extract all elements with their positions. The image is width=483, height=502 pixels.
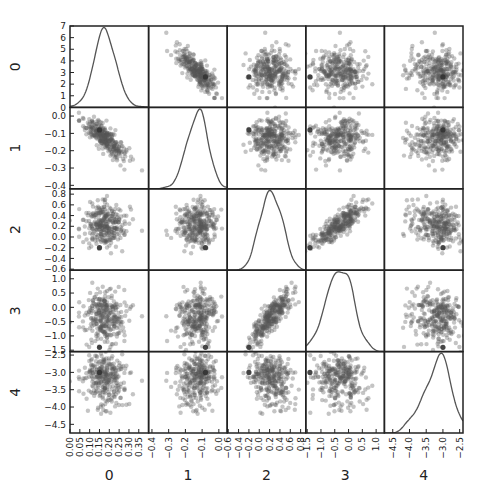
x-tick-label-2: −0.6: [223, 437, 233, 459]
kde-curve-4: [384, 353, 463, 433]
panel-frame-1-1: [149, 107, 228, 188]
outlier-point: [97, 245, 102, 250]
y-axis-title-4: 4: [7, 388, 23, 397]
outlier-point: [203, 345, 208, 350]
y-tick-label-0: 2: [60, 79, 66, 89]
x-tick-label-4: −3.0: [438, 437, 448, 459]
panel-0-2: [241, 31, 301, 125]
x-axis-title-1: 1: [183, 467, 192, 483]
y-tick-label-0: 6: [60, 33, 66, 43]
scatter-matrix-chart: 012345670−0.4−0.3−0.2−0.10.01−0.6−0.4−0.…: [0, 0, 483, 502]
x-tick-label-4: −2.5: [455, 437, 465, 459]
outlier-point: [307, 127, 312, 132]
x-axes: 0.000.050.100.150.200.250.300.350−0.4−0.…: [65, 429, 465, 483]
y-axis-title-0: 0: [7, 62, 23, 71]
x-tick-label-3: 0.5: [357, 437, 367, 451]
y-axes: 012345670−0.4−0.3−0.2−0.10.01−0.6−0.4−0.…: [7, 21, 74, 429]
panel-1-2: [241, 95, 301, 173]
panel-0-0: [70, 28, 149, 108]
y-tick-label-2: −0.6: [44, 264, 66, 274]
outlier-point: [246, 74, 251, 79]
y-axis-title-3: 3: [7, 306, 23, 315]
x-tick-label-0: 0.30: [124, 437, 134, 457]
y-tick-label-1: 0.0: [52, 111, 67, 121]
x-tick-label-0: 0.35: [134, 437, 144, 457]
x-tick-label-1: −0.2: [180, 437, 190, 459]
panel-2-4: [401, 194, 468, 256]
outlier-point: [307, 245, 312, 250]
x-tick-label-2: −0.4: [234, 437, 244, 459]
panel-2-2: [227, 190, 306, 270]
y-tick-label-0: 4: [60, 56, 66, 66]
x-tick-label-0: 0.25: [114, 437, 124, 457]
y-tick-label-2: −0.2: [44, 243, 66, 253]
y-tick-label-4: −3.0: [44, 368, 66, 378]
y-tick-label-2: 0.4: [52, 211, 67, 221]
y-tick-label-3: −0.5: [44, 317, 66, 327]
outlier-point: [440, 245, 445, 250]
panel-4-4: [384, 353, 463, 433]
x-tick-label-3: 1.0: [371, 437, 381, 452]
y-tick-label-2: 0.2: [52, 221, 66, 231]
x-tick-label-4: −4.5: [388, 437, 398, 459]
y-tick-label-0: 5: [60, 44, 66, 54]
outlier-point: [97, 345, 102, 350]
y-tick-label-1: −0.2: [44, 146, 66, 156]
y-tick-label-2: 0.6: [52, 200, 67, 210]
x-tick-label-4: −4.0: [404, 437, 414, 459]
y-tick-label-3: 0.5: [52, 288, 66, 298]
x-tick-label-4: −3.5: [421, 437, 431, 459]
x-tick-label-3: −1.5: [302, 437, 312, 459]
outlier-point: [307, 74, 312, 79]
outlier-point: [203, 370, 208, 375]
x-tick-label-3: −0.5: [330, 437, 340, 459]
panel-1-0: [54, 95, 144, 173]
outlier-point: [246, 345, 251, 350]
kde-curve-2: [227, 190, 306, 270]
y-tick-label-1: −0.1: [44, 129, 66, 139]
y-tick-label-2: −0.4: [44, 254, 66, 264]
x-tick-label-2: 0.4: [275, 437, 285, 452]
panel-4-1: [164, 347, 240, 416]
y-tick-label-2: 0.0: [52, 232, 67, 242]
outlier-point: [97, 370, 102, 375]
outlier-point: [203, 74, 208, 79]
outlier-point: [246, 370, 251, 375]
x-tick-label-3: −1.0: [316, 437, 326, 459]
kde-curve-0: [70, 28, 149, 108]
y-tick-label-3: −1.0: [44, 331, 66, 341]
outlier-point: [97, 127, 102, 132]
x-tick-label-0: 0.00: [65, 437, 75, 457]
y-tick-label-0: 3: [60, 68, 66, 78]
y-tick-label-3: 0.0: [52, 303, 67, 313]
y-tick-label-2: 0.8: [52, 189, 67, 199]
outlier-point: [440, 74, 445, 79]
panel-4-0: [54, 347, 144, 416]
outlier-point: [246, 127, 251, 132]
x-tick-label-1: −0.3: [164, 437, 174, 459]
x-tick-label-0: 0.05: [75, 437, 85, 457]
x-tick-label-1: −0.4: [147, 437, 157, 459]
panel-2-1: [164, 194, 240, 256]
y-tick-label-0: 1: [60, 91, 66, 101]
panel-2-0: [54, 194, 144, 256]
y-tick-label-4: −3.5: [44, 385, 66, 395]
y-tick-label-3: 1.0: [52, 274, 67, 284]
x-tick-label-2: 0.0: [254, 437, 264, 452]
x-tick-label-2: −0.2: [244, 437, 254, 459]
x-tick-label-0: 0.10: [85, 437, 95, 457]
panel-4-2: [241, 347, 301, 416]
x-axis-title-2: 2: [262, 467, 271, 483]
y-axis-title-1: 1: [7, 144, 23, 153]
y-tick-label-4: −4.5: [44, 420, 66, 430]
y-tick-label-4: −2.5: [44, 350, 66, 360]
panel-1-1: [149, 109, 228, 189]
panel-frame-3-3: [306, 270, 385, 351]
x-tick-label-1: −0.1: [197, 437, 207, 459]
x-tick-label-0: 0.20: [104, 437, 114, 457]
panels-layer: [54, 28, 468, 433]
y-tick-label-4: −4.0: [44, 402, 66, 412]
panel-3-3: [306, 272, 385, 352]
x-tick-label-3: 0.0: [344, 437, 354, 452]
y-tick-label-0: 7: [60, 21, 66, 31]
